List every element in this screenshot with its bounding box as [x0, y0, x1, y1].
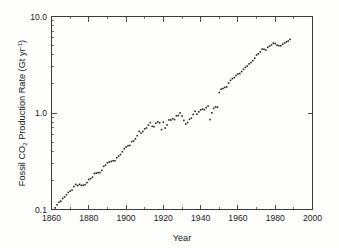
data-point — [237, 73, 239, 75]
y-tick-label-1-0: 1.0 — [35, 108, 47, 118]
data-point — [226, 86, 228, 88]
data-point — [120, 154, 122, 156]
data-point — [250, 62, 252, 64]
data-point — [123, 148, 125, 150]
data-point — [209, 119, 211, 121]
x-tick-label-1920: 1920 — [154, 213, 173, 223]
data-point — [196, 113, 198, 115]
data-point — [260, 51, 262, 53]
data-point — [280, 45, 282, 47]
data-point — [276, 44, 278, 46]
data-point — [108, 161, 110, 163]
data-point — [263, 48, 265, 50]
data-point — [235, 75, 237, 77]
data-point — [64, 196, 66, 198]
x-axis-title: Year — [173, 233, 192, 243]
data-point — [254, 57, 256, 59]
data-point — [118, 155, 120, 157]
data-point — [286, 41, 288, 43]
data-point — [183, 120, 185, 122]
data-point — [140, 132, 142, 134]
data-point — [202, 108, 204, 110]
data-point — [232, 78, 234, 80]
data-point — [135, 138, 137, 140]
data-point — [218, 92, 220, 94]
y-tick-label-10-0: 10.0 — [30, 12, 47, 22]
data-point — [258, 53, 260, 55]
data-point — [114, 160, 116, 162]
y-tick-label-0-1: 0.1 — [35, 205, 47, 215]
data-point — [241, 71, 243, 73]
data-point — [174, 119, 176, 121]
data-point — [60, 200, 62, 202]
data-point — [79, 184, 81, 186]
data-point — [289, 39, 291, 41]
data-point — [267, 47, 269, 49]
data-point — [172, 118, 174, 120]
data-point — [94, 173, 96, 175]
data-point — [136, 135, 138, 137]
data-point — [187, 122, 189, 124]
data-point — [84, 184, 86, 186]
data-point — [282, 43, 284, 45]
data-point — [278, 45, 280, 47]
data-point — [271, 44, 273, 46]
data-point — [129, 145, 131, 147]
figure-container: 18601880190019201940196019802000 0.11.01… — [0, 0, 339, 248]
data-point — [252, 60, 254, 62]
data-point — [54, 207, 56, 209]
data-point — [71, 189, 73, 191]
data-point — [269, 45, 271, 47]
data-point — [150, 122, 152, 124]
data-point — [99, 172, 101, 174]
data-point — [122, 151, 124, 153]
data-point — [86, 182, 88, 184]
data-point — [151, 126, 153, 128]
data-point — [192, 114, 194, 116]
data-point — [153, 126, 155, 128]
data-point — [248, 63, 250, 65]
data-point — [82, 185, 84, 187]
data-point — [77, 185, 79, 187]
data-point — [155, 122, 157, 124]
data-point — [131, 141, 133, 143]
data-point — [168, 119, 170, 121]
data-point — [245, 67, 247, 69]
x-tick-label-1960: 1960 — [228, 213, 247, 223]
data-point — [133, 140, 135, 142]
data-point — [256, 54, 258, 56]
data-point — [261, 48, 263, 50]
data-point — [105, 164, 107, 166]
data-point — [157, 121, 159, 123]
data-point — [138, 131, 140, 133]
data-point — [146, 127, 148, 129]
data-point — [97, 172, 99, 174]
data-point — [125, 146, 127, 148]
data-point — [56, 204, 58, 206]
data-point — [217, 106, 219, 108]
data-point — [246, 65, 248, 67]
data-point — [222, 88, 224, 90]
data-point — [103, 166, 105, 168]
data-point — [207, 105, 209, 107]
data-point — [220, 88, 222, 90]
data-point — [95, 172, 97, 174]
data-point — [177, 115, 179, 117]
data-point — [67, 192, 69, 194]
data-point — [58, 201, 60, 203]
data-point — [142, 131, 144, 133]
data-point — [243, 68, 245, 70]
data-point — [274, 43, 276, 45]
data-point — [166, 124, 168, 126]
data-point — [92, 176, 94, 178]
data-point — [224, 87, 226, 89]
data-point — [81, 185, 83, 187]
data-point — [215, 106, 217, 108]
data-point — [273, 42, 275, 44]
data-point — [73, 186, 75, 188]
data-point — [265, 49, 267, 51]
data-point — [127, 145, 129, 147]
y-axis-title: Fossil CO2 Production Rate (Gt yr-1) — [16, 40, 28, 186]
data-point — [159, 122, 161, 124]
data-point — [161, 129, 163, 131]
